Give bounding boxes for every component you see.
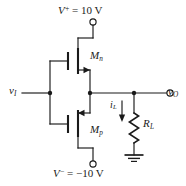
circuit-schematic-svg: [0, 0, 186, 186]
vplus-symbol: V: [58, 4, 65, 16]
positive-supply-terminal[interactable]: [90, 19, 96, 25]
input-gate-junction-dot: [48, 91, 52, 95]
vminus-value: = −10 V: [67, 167, 104, 179]
nmos-source-arrow: [84, 67, 91, 73]
nmos-label: Mn: [90, 50, 103, 63]
mn-subscript: n: [99, 55, 103, 63]
rl-symbol: R: [143, 117, 150, 129]
input-voltage-label: vI: [9, 85, 16, 98]
il-subscript: L: [113, 103, 117, 110]
mp-subscript: p: [99, 129, 103, 137]
positive-supply-label: V+ = 10 V: [58, 5, 102, 16]
load-resistor-label: RL: [143, 118, 154, 131]
vminus-sign: −: [60, 167, 64, 176]
load-current-label: iL: [110, 100, 117, 111]
output-node-junction-dot: [88, 91, 92, 95]
vminus-symbol: V: [53, 167, 60, 179]
rl-subscript: L: [150, 123, 154, 131]
negative-supply-label: V− = −10 V: [53, 168, 104, 179]
mn-symbol: M: [90, 49, 99, 61]
load-resistor-zigzag: [129, 113, 138, 143]
vplus-sign: +: [65, 4, 69, 13]
load-current-arrow-head: [119, 115, 125, 122]
mp-symbol: M: [90, 123, 99, 135]
circuit-diagram: V+ = 10 V V− = −10 V Mn Mp vI vO iL RL: [0, 0, 186, 186]
vplus-value: = 10 V: [72, 4, 102, 16]
pmos-label: Mp: [90, 124, 103, 137]
vi-subscript: I: [14, 90, 16, 98]
output-voltage-label: vO: [168, 86, 178, 99]
vo-subscript: O: [173, 91, 178, 99]
